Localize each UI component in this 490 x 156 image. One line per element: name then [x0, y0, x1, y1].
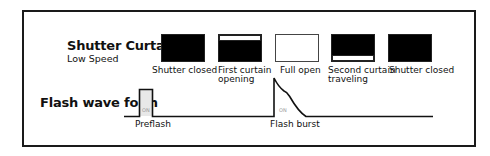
preflash-label: Preflash — [135, 120, 171, 129]
flash-waveform: ON ON — [0, 0, 490, 156]
flash-burst-label: Flash burst — [270, 120, 320, 129]
burst-on-text: ON — [279, 107, 287, 113]
preflash-on-text: ON — [142, 107, 150, 113]
